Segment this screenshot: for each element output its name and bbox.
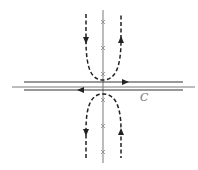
arrow-up-icon	[118, 36, 124, 43]
arrow-right-icon	[122, 79, 129, 85]
arrow-down-icon	[83, 129, 89, 136]
contour-label: C	[140, 91, 148, 104]
contour-diagram	[0, 0, 198, 170]
arrow-up-icon	[118, 128, 124, 135]
arrow-left-icon	[77, 87, 84, 93]
arrow-down-icon	[83, 37, 89, 44]
